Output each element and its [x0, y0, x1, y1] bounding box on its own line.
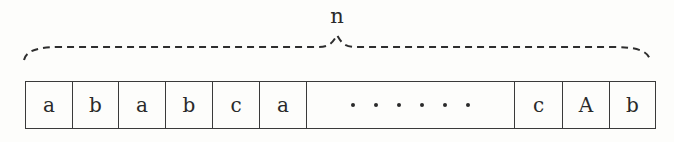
array-cell: b	[73, 82, 119, 128]
array-cell: b	[166, 82, 213, 128]
array-cell: c	[213, 82, 260, 128]
cell-char: c	[230, 95, 241, 115]
array-cell: b	[610, 82, 656, 128]
array-cell: a	[119, 82, 166, 128]
array-cell: A	[563, 82, 610, 128]
cell-char: a	[136, 95, 148, 115]
dot-icon	[466, 103, 470, 107]
array-cell: c	[515, 82, 563, 128]
dot-icon	[420, 103, 424, 107]
cell-char: b	[89, 95, 102, 115]
array-cell: a	[260, 82, 307, 128]
cell-char: A	[579, 95, 593, 115]
string-array: a b a b c a c A b	[25, 81, 656, 129]
cell-char: c	[533, 95, 544, 115]
array-cell: a	[26, 82, 73, 128]
dot-icon	[443, 103, 447, 107]
cell-char: b	[626, 95, 639, 115]
ellipsis-cell	[307, 82, 515, 128]
cell-char: a	[43, 95, 55, 115]
cell-char: a	[277, 95, 289, 115]
dot-icon	[351, 103, 355, 107]
length-label-n: n	[327, 4, 347, 28]
cell-char: b	[183, 95, 196, 115]
dot-icon	[374, 103, 378, 107]
ellipsis-dots	[351, 103, 470, 107]
dot-icon	[397, 103, 401, 107]
